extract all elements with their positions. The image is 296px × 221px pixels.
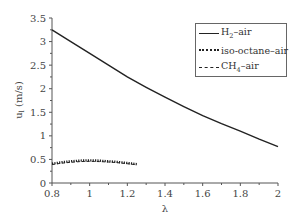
x-tick-label: 1.2 (119, 188, 135, 199)
y-tick-label: 1 (40, 130, 46, 141)
x-axis-label: λ (162, 203, 169, 214)
legend-item-iso-octane: iso-octane–air (199, 43, 288, 57)
x-tick-label: 2 (275, 188, 281, 199)
solid-line-swatch-icon (199, 33, 219, 34)
legend-item-ch4: CH4–air (199, 60, 259, 74)
y-tick-label: 3.5 (30, 13, 46, 24)
y-axis-label: ul (m/s) (13, 81, 26, 119)
legend-label: H2–air (221, 26, 251, 40)
y-tick-label: 0.5 (30, 154, 46, 165)
y-tick-label: 2.5 (30, 60, 46, 71)
legend-item-h2: H2–air (199, 26, 251, 40)
legend: H2–air iso-octane–air CH4–air (195, 23, 287, 77)
y-tick-label: 2 (40, 83, 46, 94)
x-tick-label: 1.6 (195, 188, 211, 199)
dotted-line-swatch-icon (199, 49, 219, 51)
x-tick-label: 1.4 (157, 188, 173, 199)
legend-label: CH4–air (221, 60, 259, 74)
dashed-line-swatch-icon (199, 67, 219, 68)
y-tick-label: 3 (40, 36, 46, 47)
x-tick-label: 1.8 (232, 188, 248, 199)
legend-label: iso-octane–air (221, 45, 288, 56)
x-tick-label: 0.8 (44, 188, 60, 199)
y-tick-label: 0 (40, 178, 46, 189)
y-tick-label: 1.5 (30, 107, 46, 118)
x-tick-label: 1 (86, 188, 92, 199)
